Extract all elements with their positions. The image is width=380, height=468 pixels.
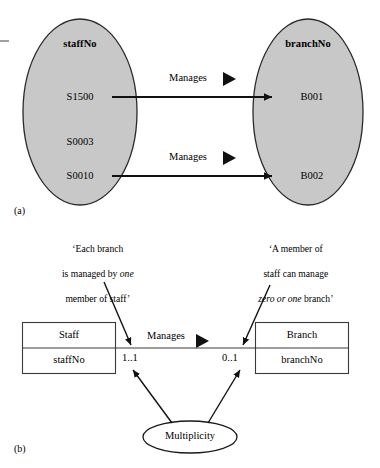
- staff-member-1: S1500: [67, 91, 94, 103]
- multiplicity-pointer-right: [208, 370, 240, 423]
- multiplicity-callout-label: Multiplicity: [165, 430, 215, 442]
- mapping-label-2: Manages: [169, 151, 207, 163]
- branch-member-1: B001: [301, 91, 324, 103]
- multiplicity-right-label: 0..1: [222, 352, 238, 364]
- note-left-line1: ‘Each branch: [72, 243, 123, 254]
- branch-class-attribute: branchNo: [281, 354, 322, 366]
- note-right-line1: ‘A member of: [269, 243, 323, 254]
- branch-class-name: Branch: [287, 329, 317, 341]
- branch-set-header: branchNo: [285, 38, 331, 50]
- staff-member-3: S0010: [67, 170, 94, 182]
- note-right-emphasis: zero or one: [258, 293, 301, 304]
- figure-root: staffNo S1500 S0003 S0010 branchNo B001 …: [0, 0, 380, 468]
- note-left-emphasis: one: [120, 268, 134, 279]
- note-right: ‘A member of staff can manage zero or on…: [224, 231, 358, 318]
- staff-set-header: staffNo: [63, 38, 96, 50]
- staff-class-name: Staff: [59, 329, 79, 341]
- staff-member-2: S0003: [67, 136, 94, 148]
- panel-b-label: (b): [14, 443, 26, 455]
- multiplicity-pointer-left: [133, 370, 172, 423]
- mapping-label-1: Manages: [169, 72, 207, 84]
- multiplicity-left-label: 1..1: [122, 352, 138, 364]
- staff-class-attribute: staffNo: [53, 354, 84, 366]
- note-left-line3: member of staff’: [65, 293, 130, 304]
- note-right-line2: staff can manage: [263, 268, 328, 279]
- direction-triangle-1: [223, 72, 236, 86]
- note-left: ‘Each branch is managed by one member of…: [27, 231, 159, 318]
- association-label: Manages: [147, 330, 185, 342]
- association-direction-triangle: [196, 334, 209, 348]
- panel-a-label: (a): [14, 205, 25, 217]
- note-right-line3-post: branch’: [302, 293, 334, 304]
- note-left-line2-pre: is managed by: [62, 268, 120, 279]
- branch-member-2: B002: [301, 170, 324, 182]
- direction-triangle-2: [223, 151, 236, 165]
